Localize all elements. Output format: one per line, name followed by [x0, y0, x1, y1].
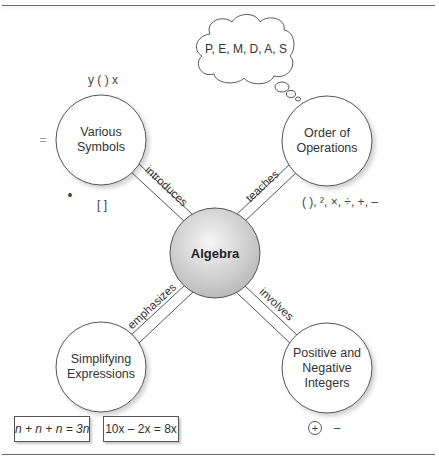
- node-label-line: Simplifying: [67, 352, 135, 367]
- node-various-symbols: Various Symbols: [77, 125, 125, 155]
- node-order-of-operations: Order of Operations: [296, 126, 357, 156]
- symbols-operations: ( ), ², ×, ÷, +, –: [302, 195, 378, 209]
- node-label-line: Symbols: [77, 140, 125, 155]
- symbol-bullet: •: [68, 187, 73, 203]
- equation-text: 10x – 2x = 8x: [105, 422, 177, 436]
- equation-text: n + n + n = 3n: [15, 422, 89, 436]
- equation-box-1: n + n + n = 3n: [14, 416, 90, 442]
- node-label-line: Integers: [293, 376, 361, 391]
- equation-box-2: 10x – 2x = 8x: [103, 416, 179, 442]
- node-label-line: Various: [77, 125, 125, 140]
- node-positive-negative-integers: Positive and Negative Integers: [293, 346, 361, 391]
- node-label-line: Expressions: [67, 367, 135, 382]
- connector-introduces: [130, 163, 193, 222]
- node-simplifying-expressions: Simplifying Expressions: [67, 352, 135, 382]
- symbol-brackets: [ ]: [97, 198, 107, 212]
- node-algebra-label: Algebra: [191, 246, 239, 261]
- circled-plus-glyph: +: [312, 422, 318, 434]
- concept-map-canvas: [0, 0, 439, 466]
- node-label-line: Positive and: [293, 346, 361, 361]
- symbol-minus: –: [334, 421, 341, 435]
- symbols-y-parens-x: y ( ) x: [88, 73, 118, 87]
- thought-cloud-icon: [196, 15, 300, 102]
- node-label-line: Operations: [296, 141, 357, 156]
- symbol-equals: =: [39, 133, 46, 147]
- node-label-line: Order of: [296, 126, 357, 141]
- node-label-line: Negative: [293, 361, 361, 376]
- thought-cloud-text: P, E, M, D, A, S: [205, 42, 287, 56]
